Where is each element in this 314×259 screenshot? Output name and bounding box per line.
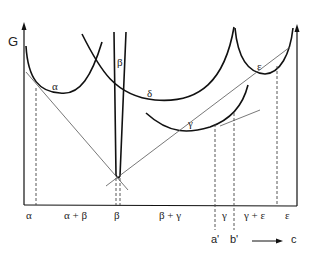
composition-label: c (291, 233, 297, 245)
beta-curve (114, 32, 126, 178)
y-axis-label: G (8, 34, 18, 49)
right-axis-arrow-icon (295, 24, 300, 32)
gamma-curve-label: γ (188, 117, 193, 129)
gamma-curve (146, 85, 248, 131)
region-label-gamma: γ (222, 209, 227, 221)
region-label-epsilon: ε (285, 209, 290, 221)
region-label-alpha-beta: α + β (64, 209, 87, 221)
epsilon-curve-label: ε (257, 60, 262, 72)
delta-curve-label: δ (147, 87, 152, 99)
region-label-beta: β (114, 209, 120, 221)
delta-curve (82, 27, 234, 100)
free-energy-diagram (0, 0, 314, 259)
alpha-curve-label: α (52, 80, 58, 92)
y-axis-arrow-icon (22, 22, 27, 30)
axes (22, 22, 300, 206)
marker-b-prime: b' (230, 233, 238, 245)
region-label-alpha: α (26, 209, 32, 221)
region-label-gamma-epsilon: γ + ε (244, 209, 265, 221)
marker-a-prime: a' (211, 233, 219, 245)
region-label-beta-gamma: β + γ (159, 209, 181, 221)
beta-curve-label: β (117, 56, 123, 68)
composition-arrow-icon (276, 239, 283, 244)
